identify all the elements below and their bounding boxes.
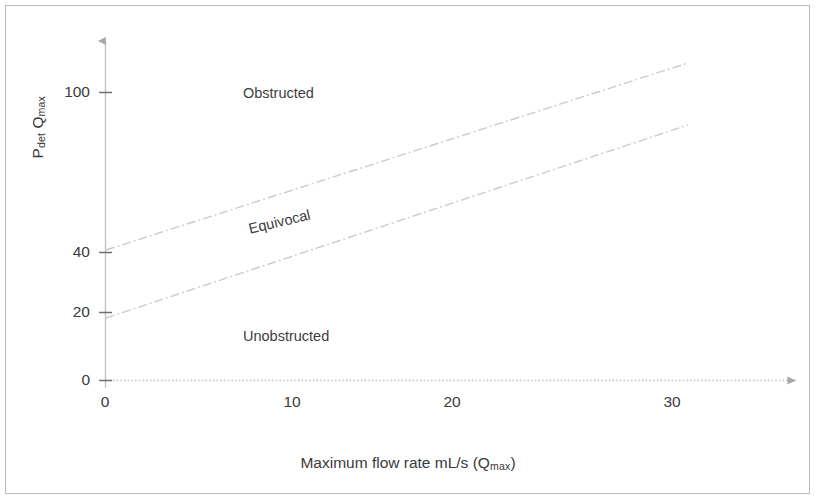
x-tick-label-20: 20 [432,394,472,410]
region-label-obstructed: Obstructed [243,86,314,101]
y-axis-title-lead: P [29,148,46,158]
y-tick-label-40: 40 [38,244,90,260]
y-axis-title-lead-sub: det [35,133,47,148]
x-axis-title-main: Maximum flow rate mL/s (Q [300,454,489,471]
y-tick-label-20: 20 [38,304,90,320]
plot-area: 100 40 20 0 0 10 20 30 Obstructed Equivo… [0,0,816,500]
y-axis-title-mid: Q [29,116,46,132]
x-axis-title: Maximum flow rate mL/s (Qmax) [0,455,816,472]
region-label-unobstructed: Unobstructed [243,329,329,344]
y-axis-title-mid-sub: max [35,96,47,117]
x-axis-title-sub: max [490,460,511,472]
y-axis-title: Pdet Qmax [30,118,47,158]
x-tick-label-0: 0 [85,394,125,410]
x-tick-label-30: 30 [652,394,692,410]
x-axis-title-tail: ) [510,454,515,471]
figure-root: 100 40 20 0 0 10 20 30 Obstructed Equivo… [0,0,816,500]
y-tick-label-0: 0 [38,372,90,388]
chart-canvas [0,0,816,500]
x-tick-label-10: 10 [272,394,312,410]
